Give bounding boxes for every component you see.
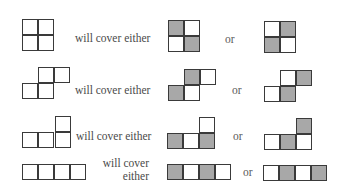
cell <box>183 133 199 149</box>
cell-shaded <box>280 21 296 37</box>
cell <box>54 164 70 180</box>
row-label: will cover either <box>76 130 151 143</box>
cell <box>295 165 311 181</box>
cell <box>168 36 184 52</box>
cell-shaded <box>279 165 295 181</box>
row-label: will cover either <box>75 84 150 97</box>
cell <box>22 83 38 99</box>
cell <box>55 116 71 132</box>
cell-shaded <box>167 133 183 149</box>
cell <box>263 165 279 181</box>
cell <box>22 19 38 35</box>
cell-shaded <box>167 164 183 180</box>
cell <box>184 85 200 101</box>
cell <box>22 164 38 180</box>
cell <box>70 164 86 180</box>
cell <box>296 134 312 150</box>
cell <box>280 70 296 86</box>
cell <box>38 19 54 35</box>
cell <box>183 164 199 180</box>
row-label-line1: will cover <box>100 157 149 170</box>
cell <box>264 21 280 37</box>
cell-shaded <box>199 164 215 180</box>
cell <box>22 35 38 51</box>
cell <box>280 37 296 53</box>
cell <box>22 132 38 148</box>
tetromino-coloring-diagram: will cover either or will cover either <box>0 0 342 189</box>
cell-shaded <box>168 85 184 101</box>
or-connector: or <box>243 166 253 179</box>
cell <box>38 35 54 51</box>
cell <box>38 132 54 148</box>
cell <box>38 83 54 99</box>
cell <box>38 164 54 180</box>
or-connector: or <box>233 130 243 143</box>
or-connector: or <box>232 84 242 97</box>
cell-shaded <box>280 86 296 102</box>
cell <box>184 20 200 36</box>
cell <box>264 134 280 150</box>
cell <box>199 117 215 133</box>
cell-shaded <box>184 36 200 52</box>
row-label: will cover either <box>75 32 150 45</box>
cell-shaded <box>184 69 200 85</box>
cell-shaded <box>199 133 215 149</box>
cell-shaded <box>264 37 280 53</box>
cell-shaded <box>311 165 327 181</box>
cell-shaded <box>296 118 312 134</box>
or-connector: or <box>225 33 235 46</box>
cell-shaded <box>296 70 312 86</box>
cell-shaded <box>168 20 184 36</box>
cell <box>215 164 231 180</box>
cell <box>264 86 280 102</box>
cell <box>55 132 71 148</box>
cell-shaded <box>280 134 296 150</box>
cell <box>38 67 54 83</box>
cell <box>54 67 70 83</box>
row-label-line2: either <box>100 170 149 183</box>
cell <box>200 69 216 85</box>
